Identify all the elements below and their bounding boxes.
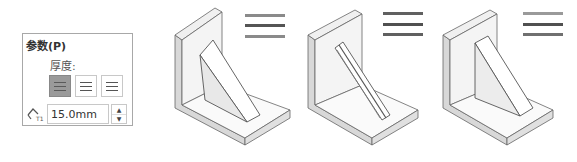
thickness-side-one-button[interactable] [75, 75, 97, 97]
spin-down-button[interactable]: ▼ [112, 114, 126, 123]
rib-both-sides-illustration [165, 0, 295, 162]
rib-thickness-icon: T1 [26, 105, 44, 123]
panel-title: 参数(P) [26, 37, 66, 53]
thickness-side-two-button[interactable] [101, 75, 123, 97]
parameters-panel: 参数(P) 厚度: T1 15.0mm ▲ ▼ [22, 33, 133, 126]
rib-side-two-illustration [435, 0, 565, 162]
thickness-label: 厚度: [50, 57, 76, 73]
thickness-both-sides-button[interactable] [49, 75, 71, 97]
rib-side-one-illustration [300, 0, 430, 162]
thickness-spinner[interactable]: ▲ ▼ [111, 104, 127, 124]
thickness-input[interactable]: 15.0mm [47, 104, 109, 124]
svg-text:T1: T1 [35, 115, 44, 122]
